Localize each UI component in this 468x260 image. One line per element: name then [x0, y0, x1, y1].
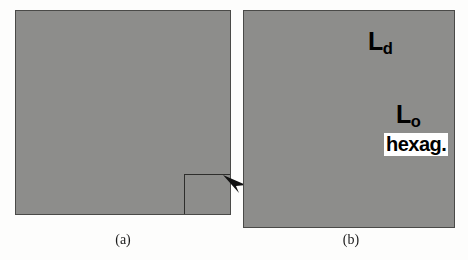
label-lo-subscript: o: [411, 112, 421, 130]
caption-panel-a: (a): [93, 232, 153, 248]
label-lo-base: L: [396, 100, 411, 128]
figure-root: Ld Lo hexag. (a) (b): [0, 0, 468, 260]
label-ld-base: L: [368, 27, 383, 55]
panel-a: [15, 10, 231, 215]
label-ld: Ld: [368, 29, 392, 54]
label-hexag: hexag.: [384, 133, 448, 156]
lattice-canvas-b: [244, 11, 454, 227]
caption-panel-b: (b): [321, 232, 381, 248]
label-ld-subscript: d: [383, 39, 393, 57]
panel-b: [243, 10, 455, 228]
label-lo: Lo: [396, 102, 420, 127]
label-hexag-text: hexag.: [386, 133, 446, 155]
